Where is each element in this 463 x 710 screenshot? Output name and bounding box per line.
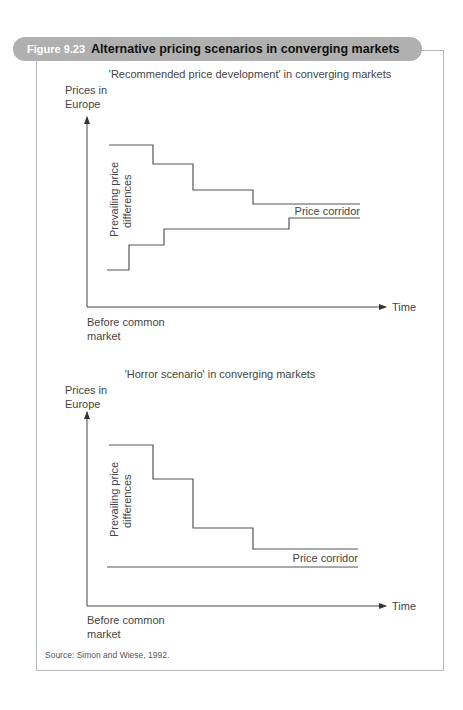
origin-label-line2: market [87, 628, 121, 640]
charts-canvas: 'Recommended price development' in conve… [0, 0, 463, 710]
price-corridor-label: Price corridor [293, 552, 359, 564]
side-label-line1: Prevailing price [108, 162, 120, 237]
x-axis-label: Time [392, 600, 416, 612]
price-corridor-label: Price corridor [295, 205, 361, 217]
lower-price-line [107, 218, 360, 270]
y-axis-label-line2: Europe [65, 98, 100, 110]
chart-title: 'Recommended price development' in conve… [109, 68, 392, 80]
origin-label-line1: Before common [87, 614, 165, 626]
y-axis-label-line1: Prices in [65, 384, 107, 396]
origin-label-line2: market [87, 330, 121, 342]
source-note: Source: Simon and Wiese, 1992. [45, 650, 169, 660]
x-axis-label: Time [392, 301, 416, 313]
y-axis-label-line2: Europe [65, 398, 100, 410]
chart-recommended: 'Recommended price development' in conve… [65, 68, 416, 342]
origin-label-line1: Before common [87, 316, 165, 328]
upper-price-line [109, 145, 360, 204]
upper-price-line [109, 445, 358, 549]
chart-horror: 'Horror scenario' in converging markets … [65, 368, 416, 640]
side-label-line2: differences [121, 174, 133, 228]
side-label-line1: Prevailing price [108, 462, 120, 537]
y-axis-label-line1: Prices in [65, 84, 107, 96]
chart-title: 'Horror scenario' in converging markets [125, 368, 316, 380]
side-label-line2: differences [121, 474, 133, 528]
